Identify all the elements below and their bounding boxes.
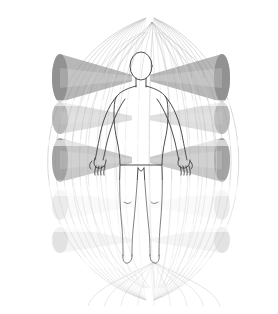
crotch-outline	[138, 168, 144, 171]
beam-cone	[150, 54, 230, 102]
torso-outline	[114, 86, 168, 165]
tier-separator-band	[40, 140, 240, 146]
tier-separator-band	[40, 100, 240, 106]
lower-fade-veil	[0, 180, 278, 314]
beam-tier	[52, 102, 230, 134]
beam-field-diagram	[0, 0, 278, 314]
fan-line-top	[152, 22, 154, 78]
diagram-canvas	[0, 0, 278, 314]
